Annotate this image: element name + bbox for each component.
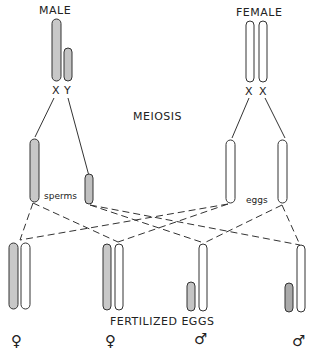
fert-line (90, 205, 300, 245)
male-symbol-icon: ♂ (292, 332, 305, 350)
sperm-y-chromosome (85, 174, 93, 204)
meiosis-line-female-x1 (232, 98, 249, 138)
sperm-x-chromosome (30, 139, 39, 202)
fertilized-eggs-label: FERTILIZED EGGS (110, 315, 214, 328)
fert-line (282, 205, 300, 245)
sperms-label: sperms (44, 191, 77, 201)
female-x1-chromosome (246, 21, 254, 82)
fert-line (20, 203, 33, 240)
offspring2-x-paternal (103, 244, 111, 310)
female-symbol-icon: ♀ (11, 332, 22, 350)
male-y-label: Y (64, 84, 71, 97)
offspring3-x-maternal (199, 244, 207, 311)
female-label: FEMALE (236, 6, 282, 19)
egg-x2-chromosome (278, 140, 287, 203)
offspring2-x-maternal (115, 244, 123, 310)
fert-line (20, 204, 228, 240)
offspring4-x-maternal (297, 245, 305, 312)
male-x-chromosome (52, 19, 61, 81)
diagram-svg (0, 0, 313, 355)
female-x1-label: X (245, 85, 253, 98)
eggs-label: eggs (246, 195, 268, 205)
offspring1-x-paternal (9, 243, 18, 309)
offspring3-y-paternal (187, 282, 195, 311)
male-label: MALE (39, 4, 71, 17)
female-x2-label: X (259, 85, 267, 98)
sex-determination-diagram: MALE FEMALE X Y X X MEIOSIS sperms eggs … (0, 0, 313, 355)
meiosis-line-male-x (35, 98, 54, 137)
meiosis-line-female-x2 (265, 98, 285, 138)
meiosis-line-male-y (68, 98, 89, 176)
female-symbol-icon: ♀ (105, 332, 116, 350)
fert-line (33, 203, 118, 242)
offspring4-y-paternal (285, 283, 293, 312)
egg-x1-chromosome (226, 140, 235, 203)
male-symbol-icon: ♂ (194, 330, 207, 348)
fert-line (118, 204, 228, 242)
fert-line (204, 205, 282, 243)
male-x-label: X (52, 84, 60, 97)
offspring1-x-maternal (21, 243, 30, 309)
female-x2-chromosome (259, 21, 267, 82)
male-y-chromosome (64, 48, 72, 81)
meiosis-label: MEIOSIS (133, 110, 182, 123)
